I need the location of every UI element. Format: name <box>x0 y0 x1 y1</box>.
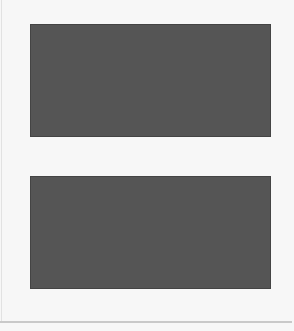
page-bottom-divider <box>0 321 292 323</box>
page-border <box>1 0 2 322</box>
photo-tile-grid <box>30 24 271 137</box>
abstract-block-grid <box>30 176 271 289</box>
